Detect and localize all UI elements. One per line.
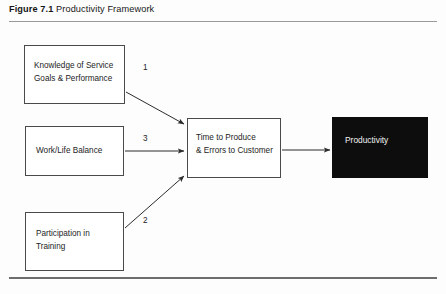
node-productivity-label: Productivity (345, 134, 388, 147)
node-time-to-produce-errors: Time to Produce & Errors to Customer (187, 118, 281, 178)
node-knowledge-label: Knowledge of Service Goals & Performance (34, 60, 113, 85)
node-worklife-label: Work/Life Balance (36, 145, 102, 158)
figure-caption-label: Figure 7.1 (9, 4, 53, 14)
node-outcome-label: Time to Produce & Errors to Customer (196, 132, 273, 157)
bottom-divider (9, 277, 437, 279)
node-training-label: Participation in Training (36, 228, 90, 253)
node-productivity: Productivity (332, 117, 428, 178)
figure-page: Figure 7.1 Productivity Framework Knowle… (0, 0, 446, 294)
edge-label-knowledge: 1 (143, 63, 148, 73)
node-work-life-balance: Work/Life Balance (25, 126, 124, 176)
node-knowledge-of-service-goals: Knowledge of Service Goals & Performance (24, 45, 125, 104)
figure-caption: Figure 7.1 Productivity Framework (9, 3, 154, 15)
edge-label-training: 2 (143, 216, 148, 226)
node-participation-in-training: Participation in Training (25, 212, 124, 271)
edge-knowledge-to-outcome (126, 92, 184, 124)
top-divider (9, 21, 437, 22)
edge-label-worklife: 3 (143, 134, 148, 144)
edge-training-to-outcome (125, 176, 184, 228)
figure-caption-title: Productivity Framework (56, 4, 154, 14)
